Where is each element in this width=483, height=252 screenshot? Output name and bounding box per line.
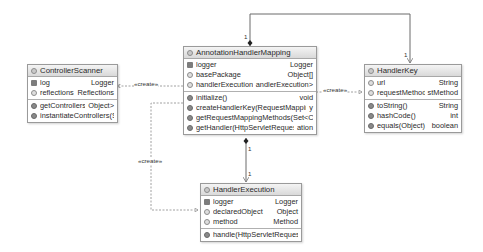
- field-name: url: [377, 78, 436, 88]
- method-icon: [368, 123, 374, 129]
- field-row[interactable]: logger Logger: [184, 60, 316, 70]
- field-type: Logger: [275, 197, 298, 207]
- method-row[interactable]: createHandlerKey(RequestMapping) y: [184, 103, 316, 113]
- method-row[interactable]: hashCode() int: [365, 111, 461, 121]
- field-type: Logger: [91, 78, 114, 88]
- class-header[interactable]: ControllerScanner: [28, 65, 117, 77]
- method-type: int: [450, 111, 458, 121]
- class-handler-key[interactable]: HandlerKey url String requestMethod stMe…: [364, 64, 462, 133]
- method-row[interactable]: initialize() void: [184, 93, 316, 103]
- field-type: stMethod: [428, 88, 458, 98]
- method-row[interactable]: getHandler(HttpServletRequest) ation: [184, 123, 316, 133]
- field-row[interactable]: reflections Reflections: [28, 88, 117, 98]
- multiplicity-label: 1: [244, 33, 247, 40]
- method-name: getRequestMappingMethods(Set<Clas: [196, 113, 313, 123]
- class-title: HandlerKey: [377, 66, 418, 76]
- method-type: y: [309, 103, 313, 113]
- method-row[interactable]: getControllers() Object>: [28, 101, 117, 111]
- method-icon: [31, 113, 37, 119]
- class-title: AnnotationHandlerMapping: [196, 48, 291, 58]
- field-name: logger: [196, 60, 287, 70]
- method-name: getControllers(): [40, 101, 85, 111]
- field-row[interactable]: declaredObject Object: [201, 207, 301, 217]
- method-icon: [368, 113, 374, 119]
- create-stereotype-label: «create»: [134, 80, 158, 87]
- field-row[interactable]: logger Logger: [201, 197, 301, 207]
- method-type: Object>: [88, 101, 114, 111]
- field-row[interactable]: requestMethod stMethod: [365, 88, 461, 98]
- method-type: boolean: [432, 121, 458, 131]
- field-type: Object: [277, 207, 298, 217]
- class-title: HandlerExecution: [213, 185, 275, 195]
- field-name: basePackage: [196, 70, 285, 80]
- field-icon: [31, 90, 37, 96]
- static-field-icon: [31, 80, 37, 86]
- class-annotation-handler-mapping[interactable]: AnnotationHandlerMapping logger Logger b…: [183, 46, 317, 135]
- fields-section: url String requestMethod stMethod: [365, 77, 461, 100]
- field-row[interactable]: log Logger: [28, 78, 117, 88]
- field-icon: [187, 82, 193, 88]
- method-icon: [204, 232, 210, 238]
- static-field-icon: [204, 199, 210, 205]
- class-icon: [187, 50, 193, 56]
- method-name: initialize(): [196, 93, 296, 103]
- methods-section: initialize() void createHandlerKey(Reque…: [184, 92, 316, 134]
- method-name: equals(Object): [377, 121, 429, 131]
- field-name: method: [213, 217, 270, 227]
- field-row[interactable]: handlerExecutions andlerExecution>: [184, 80, 316, 90]
- field-type: Method: [273, 217, 298, 227]
- class-header[interactable]: HandlerKey: [365, 65, 461, 77]
- method-row[interactable]: handle(HttpServletRequest,: [201, 230, 301, 240]
- field-name: reflections: [40, 88, 74, 98]
- field-icon: [368, 90, 374, 96]
- method-name: hashCode(): [377, 111, 447, 121]
- multiplicity-label: 1: [404, 51, 407, 58]
- field-name: declaredObject: [213, 207, 274, 217]
- method-icon: [187, 95, 193, 101]
- method-icon: [368, 103, 374, 109]
- method-name: createHandlerKey(RequestMapping): [196, 103, 306, 113]
- fields-section: logger Logger basePackage Object[] handl…: [184, 59, 316, 92]
- method-icon: [31, 103, 37, 109]
- field-name: handlerExecutions: [196, 80, 253, 90]
- method-name: toString(): [377, 101, 436, 111]
- method-icon: [187, 115, 193, 121]
- method-name: getHandler(HttpServletRequest): [196, 123, 294, 133]
- method-row[interactable]: getRequestMappingMethods(Set<Clas: [184, 113, 316, 123]
- field-icon: [368, 80, 374, 86]
- class-handler-execution[interactable]: HandlerExecution logger Logger declaredO…: [200, 183, 302, 242]
- method-type: void: [299, 93, 313, 103]
- field-row[interactable]: basePackage Object[]: [184, 70, 316, 80]
- create-stereotype-label: «create»: [138, 157, 162, 164]
- method-row[interactable]: instantiateControllers(Se: [28, 111, 117, 121]
- field-type: String: [439, 78, 458, 88]
- field-name: log: [40, 78, 88, 88]
- field-row[interactable]: method Method: [201, 217, 301, 227]
- class-header[interactable]: HandlerExecution: [201, 184, 301, 196]
- field-type: Object[]: [288, 70, 313, 80]
- field-name: requestMethod: [377, 88, 425, 98]
- class-icon: [368, 68, 374, 74]
- fields-section: log Logger reflections Reflections: [28, 77, 117, 100]
- multiplicity-label: 1: [248, 145, 251, 152]
- field-icon: [187, 72, 193, 78]
- method-type: String: [439, 101, 458, 111]
- method-name: handle(HttpServletRequest,: [213, 230, 298, 240]
- class-controller-scanner[interactable]: ControllerScanner log Logger reflections…: [27, 64, 118, 123]
- method-type: ation: [297, 123, 313, 133]
- class-icon: [31, 68, 37, 74]
- methods-section: toString() String hashCode() int equals(…: [365, 100, 461, 132]
- static-field-icon: [187, 62, 193, 68]
- field-type: andlerExecution>: [256, 80, 313, 90]
- field-name: logger: [213, 197, 272, 207]
- multiplicity-label: 1: [248, 170, 251, 177]
- methods-section: getControllers() Object> instantiateCont…: [28, 100, 117, 122]
- fields-section: logger Logger declaredObject Object meth…: [201, 196, 301, 229]
- class-header[interactable]: AnnotationHandlerMapping: [184, 47, 316, 59]
- class-icon: [204, 187, 210, 193]
- field-row[interactable]: url String: [365, 78, 461, 88]
- method-row[interactable]: equals(Object) boolean: [365, 121, 461, 131]
- field-icon: [204, 209, 210, 215]
- method-icon: [187, 105, 193, 111]
- method-row[interactable]: toString() String: [365, 101, 461, 111]
